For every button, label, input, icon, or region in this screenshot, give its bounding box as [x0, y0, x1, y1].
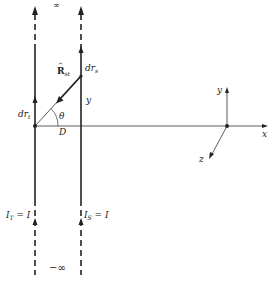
point-t	[33, 124, 37, 128]
theta-label: θ	[59, 112, 64, 121]
theta-arc	[51, 109, 58, 126]
d-label: D	[59, 128, 66, 137]
r-hat-arrow	[60, 76, 81, 99]
is-label: IS = I	[84, 211, 109, 221]
y-wire-label: y	[86, 96, 91, 105]
axis-y-label: y	[217, 86, 222, 95]
point-s	[79, 74, 82, 77]
coordinate-axes	[209, 87, 268, 159]
infinity-bottom-label: −∞	[49, 263, 66, 273]
r-hat-label: Rst	[57, 67, 70, 77]
it-label: IT = I	[6, 211, 30, 221]
infinity-top-label: ∞	[53, 2, 60, 10]
axis-x-label: x	[262, 130, 267, 139]
current-arrows	[32, 6, 84, 225]
dr-s-label: drs	[85, 64, 98, 74]
dr-t-label: drt	[18, 110, 31, 120]
diagram-canvas	[0, 0, 272, 283]
axis-z-label: z	[199, 155, 204, 164]
